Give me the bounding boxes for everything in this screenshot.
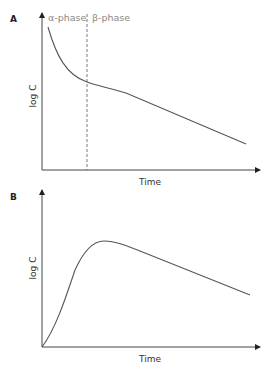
curve-a xyxy=(48,27,246,144)
panel-a: A α-phase β-phase log C Time xyxy=(10,12,260,187)
panel-a-label: A xyxy=(10,14,17,24)
y-axis-label: log C xyxy=(28,85,38,108)
panel-b-label: B xyxy=(10,192,17,202)
x-axis-label: Time xyxy=(138,354,161,364)
figure: A α-phase β-phase log C Time B log C Tim… xyxy=(0,0,270,374)
curve-b xyxy=(42,241,250,347)
panel-b: B log C Time xyxy=(10,190,260,364)
x-axis-label: Time xyxy=(138,177,161,187)
y-axis-label: log C xyxy=(28,257,38,280)
alpha-phase-label: α-phase xyxy=(48,12,87,23)
beta-phase-label: β-phase xyxy=(92,12,130,23)
